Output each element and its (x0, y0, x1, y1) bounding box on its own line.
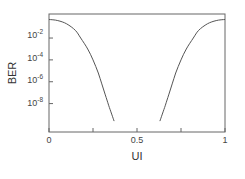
data-series (49, 20, 225, 122)
y-tick-label: 10-8 (27, 96, 43, 108)
x-axis-label: UI (132, 150, 143, 162)
x-axis-ticks (49, 128, 225, 132)
x-tick-labels: 0 0.5 1 (46, 135, 227, 145)
y-tick-labels: 10-2 10-4 10-6 10-8 (27, 28, 43, 108)
y-axis-ticks (49, 38, 53, 104)
x-tick-label: 0.5 (131, 135, 144, 145)
bathtub-curve (49, 20, 114, 122)
y-axis-label: BER (6, 62, 18, 85)
y-tick-label: 10-6 (27, 73, 43, 85)
y-tick-label: 10-2 (27, 28, 43, 40)
x-tick-label: 0 (46, 135, 51, 145)
ber-bathtub-chart: 10-2 10-4 10-6 10-8 0 0.5 1 UI BER (0, 0, 245, 179)
x-tick-label: 1 (222, 135, 227, 145)
bathtub-curve (160, 20, 225, 122)
y-tick-label: 10-4 (27, 51, 43, 63)
plot-frame (49, 14, 225, 132)
